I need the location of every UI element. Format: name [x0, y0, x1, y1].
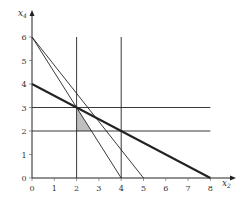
x-tick-label: 6 — [163, 184, 168, 193]
x-tick-label: 3 — [96, 184, 101, 193]
x-tick-label: 7 — [186, 184, 191, 193]
x-axis-arrow-icon — [230, 176, 236, 181]
y-tick-label: 2 — [21, 127, 26, 136]
y-tick-label: 0 — [21, 174, 26, 183]
axes — [30, 10, 237, 181]
x-tick-label: 4 — [119, 184, 124, 193]
ticks: 0123456780123456 — [21, 33, 212, 193]
y-tick-label: 3 — [21, 104, 26, 113]
constraint-lines — [32, 37, 210, 178]
x-tick-label: 5 — [141, 184, 146, 193]
x-axis-label: x2 — [222, 178, 231, 189]
y-axis-arrow-icon — [30, 10, 35, 16]
x-tick-label: 8 — [208, 184, 213, 193]
x-tick-label: 1 — [52, 184, 57, 193]
y-tick-label: 1 — [21, 151, 26, 160]
y-axis-label: x4 — [18, 8, 27, 19]
y-tick-label: 4 — [21, 80, 26, 89]
y-tick-label: 6 — [21, 33, 26, 42]
x-tick-label: 2 — [74, 184, 79, 193]
x-tick-label: 0 — [29, 184, 34, 193]
y-tick-label: 5 — [21, 57, 26, 66]
chart-plot: 0123456780123456 x4 x2 — [0, 0, 246, 205]
